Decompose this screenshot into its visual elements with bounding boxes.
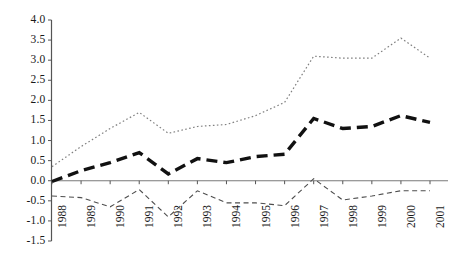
x-axis-label: 2001: [435, 205, 447, 228]
series-layer: [52, 38, 430, 217]
x-axis-label: 1992: [173, 205, 185, 228]
y-axis-label: 3.5: [31, 34, 46, 46]
series-middle-series: [52, 116, 430, 182]
y-axis-label: 1.5: [31, 114, 46, 126]
x-axis-label: 1988: [57, 205, 69, 228]
x-axis-label: 1989: [86, 205, 98, 228]
y-axis-label: -0.5: [26, 195, 45, 207]
y-axis-label: 0.5: [31, 155, 46, 167]
x-axis-label: 1993: [202, 205, 214, 228]
x-axis-label: 2000: [406, 205, 418, 228]
plot-area: [0, 0, 454, 270]
y-axis-label: -1.0: [26, 215, 45, 227]
line-chart: 4.03.53.02.52.01.51.00.50.0-0.5-1.0-1.5 …: [0, 0, 454, 270]
y-axis-label: 2.0: [31, 94, 46, 106]
x-axis-label: 1994: [231, 205, 243, 228]
y-axis-label: 2.5: [31, 74, 46, 86]
x-axis-label: 1990: [115, 205, 127, 228]
y-axis-label: 1.0: [31, 135, 46, 147]
x-axis-label: 1998: [348, 205, 360, 228]
x-axis-label: 1995: [261, 205, 273, 228]
x-axis-label: 1997: [319, 205, 331, 228]
y-axis-label: 0.0: [31, 175, 46, 187]
x-axis-label: 1999: [377, 205, 389, 228]
series-upper-series: [52, 38, 430, 167]
x-axis-label: 1991: [144, 205, 156, 228]
x-axis-label: 1996: [290, 205, 302, 228]
y-axis-label: 4.0: [31, 14, 46, 26]
y-axis-label: 3.0: [31, 54, 46, 66]
y-axis-label: -1.5: [26, 235, 45, 247]
